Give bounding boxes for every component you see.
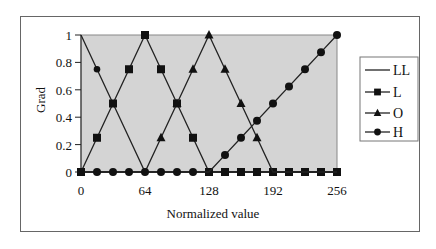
square-marker-icon <box>237 168 245 176</box>
circle-marker-icon <box>173 168 181 176</box>
triangle-marker-icon <box>205 30 214 39</box>
legend-label: LL <box>393 63 410 78</box>
y-axis-title: Grad <box>33 87 48 113</box>
circle-marker-icon <box>77 168 85 176</box>
y-tick-label: 0 <box>66 165 73 180</box>
circle-marker-icon <box>269 100 277 108</box>
x-tick-label: 0 <box>78 183 85 198</box>
circle-marker-icon <box>333 31 341 39</box>
circle-marker-icon <box>157 168 165 176</box>
plot-area <box>81 35 337 172</box>
circle-marker-icon <box>374 129 381 136</box>
y-tick-label: 0.4 <box>56 110 73 125</box>
square-marker-icon <box>189 134 197 142</box>
circle-marker-icon <box>285 82 293 90</box>
y-tick-label: 0.6 <box>56 83 73 98</box>
legend-label: H <box>393 125 403 140</box>
square-marker-icon <box>125 65 133 73</box>
circle-marker-icon <box>237 134 245 142</box>
x-axis-title: Normalized value <box>167 206 260 221</box>
circle-marker-icon <box>94 66 101 73</box>
square-marker-icon <box>221 168 229 176</box>
circle-marker-icon <box>125 168 133 176</box>
circle-marker-icon <box>253 117 261 125</box>
x-tick-label: 192 <box>263 183 283 198</box>
legend-label: O <box>393 106 403 121</box>
chart: 00.20.40.60.81 064128192256 Normalized v… <box>0 0 436 249</box>
square-marker-icon <box>141 31 149 39</box>
y-tick-label: 0.2 <box>56 138 72 153</box>
legend: LLLOH <box>360 57 418 141</box>
y-axis: 00.20.40.60.81 <box>56 28 81 180</box>
x-tick-label: 64 <box>139 183 153 198</box>
circle-marker-icon <box>141 168 149 176</box>
y-tick-label: 1 <box>66 28 73 43</box>
circle-marker-icon <box>189 168 197 176</box>
y-tick-label: 0.8 <box>56 55 72 70</box>
circle-marker-icon <box>93 168 101 176</box>
square-marker-icon <box>93 134 101 142</box>
x-tick-label: 128 <box>199 183 219 198</box>
circle-marker-icon <box>221 151 229 159</box>
square-marker-icon <box>253 168 261 176</box>
square-marker-icon <box>109 100 117 108</box>
circle-marker-icon <box>301 65 309 73</box>
x-tick-label: 256 <box>327 183 347 198</box>
circle-marker-icon <box>109 168 117 176</box>
square-marker-icon <box>157 65 165 73</box>
circle-marker-icon <box>317 48 325 56</box>
square-marker-icon <box>374 89 381 96</box>
legend-label: L <box>393 85 402 100</box>
